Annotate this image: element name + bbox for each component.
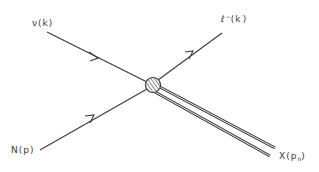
neutrino-momentum: (k) (38, 18, 53, 28)
hadron-momentum: (p (286, 151, 297, 161)
nucleon-line (40, 89, 147, 150)
nucleon-label: N(p) (11, 146, 34, 155)
hadron-momentum-close: ) (301, 151, 306, 161)
nucleon-momentum: (p) (19, 145, 35, 155)
lepton-label: ℓ−(k′) (221, 14, 247, 24)
nucleon-symbol: N (11, 145, 19, 155)
lepton-momentum-close: ) (243, 14, 248, 24)
neutrino-arrow-icon (89, 52, 98, 61)
lepton-momentum: (k (231, 14, 242, 24)
hadron-lines (155, 86, 275, 156)
neutrino-line (47, 32, 147, 82)
lepton-line (158, 33, 222, 80)
vertex-blob (146, 78, 161, 93)
neutrino-label: ν(k) (32, 19, 53, 28)
hadron-label: X(pn) (279, 152, 306, 162)
feynman-diagram: ν(k) ℓ−(k′) N(p) X(pn) (0, 0, 319, 172)
